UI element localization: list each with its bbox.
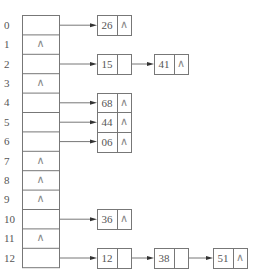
node-key: 06 [97,137,117,148]
arrow-head-icon [90,101,97,105]
null-pointer-icon: ∧ [22,38,59,49]
null-pointer-icon: ∧ [117,213,131,224]
node-key: 68 [97,98,117,109]
slot-index-label: 1 [4,39,10,50]
null-pointer-icon: ∧ [117,116,131,127]
slot-index-label: 7 [4,156,10,167]
arrow-head-icon [90,140,97,144]
arrow-head-icon [206,256,213,260]
null-pointer-icon: ∧ [174,58,188,69]
slot-index-label: 8 [4,175,10,186]
arrow-head-icon [147,256,154,260]
node-key: 38 [154,253,174,264]
slot-index-label: 10 [4,214,15,225]
null-pointer-icon: ∧ [117,19,131,30]
node-key: 44 [97,117,117,128]
null-pointer-icon: ∧ [117,97,131,108]
arrow-head-icon [90,120,97,124]
node-key: 15 [97,59,117,70]
null-pointer-icon: ∧ [117,136,131,147]
slot-index-label: 2 [4,59,10,70]
slot-index-label: 5 [4,117,10,128]
node-key: 41 [154,59,174,70]
null-pointer-icon: ∧ [233,252,247,263]
slot-index-label: 6 [4,136,10,147]
slot-index-label: 9 [4,194,10,205]
slot-index-label: 3 [4,78,10,89]
slot-index-label: 11 [4,233,15,244]
arrow-head-icon [90,62,97,66]
arrow-head-icon [147,62,154,66]
slot-index-label: 4 [4,97,10,108]
slot-index-label: 12 [4,253,15,264]
hash-table [23,16,60,268]
null-pointer-icon: ∧ [22,155,59,166]
null-pointer-icon: ∧ [22,77,59,88]
arrow-head-icon [90,23,97,27]
arrow-head-icon [90,256,97,260]
null-pointer-icon: ∧ [22,193,59,204]
arrow-head-icon [90,217,97,221]
node-key: 12 [97,253,117,264]
null-pointer-icon: ∧ [22,174,59,185]
node-key: 36 [97,214,117,225]
node-key: 51 [213,253,233,264]
null-pointer-icon: ∧ [22,232,59,243]
slot-index-label: 0 [4,20,10,31]
node-key: 26 [97,20,117,31]
